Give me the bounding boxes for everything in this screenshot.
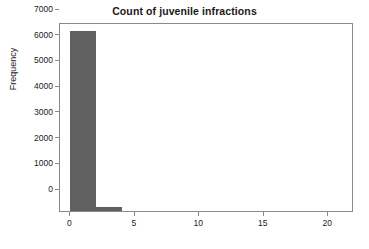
y-tick-label: 0 [48, 183, 53, 195]
x-tick-mark [134, 212, 135, 216]
y-tick-label: 7000 [34, 3, 53, 15]
histogram-bar [96, 207, 122, 211]
y-axis-ticks: 01000200030004000500060007000 [0, 0, 59, 189]
y-tick-label: 2000 [34, 132, 53, 144]
y-tick-label: 1000 [34, 157, 53, 169]
y-tick-label: 6000 [34, 29, 53, 41]
y-tick-label: 3000 [34, 106, 53, 118]
x-tick-label: 0 [49, 218, 89, 228]
x-tick-label: 15 [243, 218, 283, 228]
x-tick-label: 20 [307, 218, 347, 228]
x-tick-mark [69, 212, 70, 216]
x-tick-label: 5 [114, 218, 154, 228]
y-tick-label: 4000 [34, 80, 53, 92]
plot-area [59, 23, 353, 212]
y-tick-label: 5000 [34, 54, 53, 66]
x-tick-mark [263, 212, 264, 216]
histogram-figure: Count of juvenile infractions Frequency … [0, 0, 369, 249]
y-tick-mark [55, 9, 59, 10]
x-axis-ticks: 05101520 [59, 212, 353, 242]
x-tick-mark [327, 212, 328, 216]
histogram-bar [70, 31, 96, 211]
x-tick-label: 10 [178, 218, 218, 228]
x-tick-mark [198, 212, 199, 216]
